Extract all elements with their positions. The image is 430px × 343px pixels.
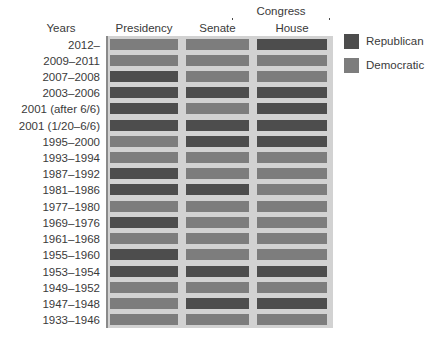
cell-house [257,55,327,66]
row-label-years: 1995–2000 [0,135,100,149]
table-row: 1955–1960 [0,247,430,263]
cell-presidency [110,314,178,325]
cell-house [257,136,327,147]
cell-presidency [110,103,178,114]
cell-senate [186,266,249,277]
cell-presidency [110,298,178,309]
party-control-chart: Congress Years Presidency Senate House 2… [0,0,430,343]
cell-house [257,152,327,163]
cell-senate [186,298,249,309]
table-row: 2001 (after 6/6) [0,101,430,117]
row-label-years: 1947–1948 [0,297,100,311]
row-label-years: 2012– [0,38,100,52]
cell-presidency [110,233,178,244]
table-row: 1933–1946 [0,312,430,328]
row-label-years: 1993–1994 [0,151,100,165]
cell-house [257,184,327,195]
cell-senate [186,120,249,131]
table-row: 1987–1992 [0,166,430,182]
cell-senate [186,249,249,260]
cell-senate [186,55,249,66]
row-label-years: 2001 (1/20–6/6) [0,119,100,133]
cell-senate [186,87,249,98]
legend-swatch-republican [344,34,359,49]
row-label-years: 1987–1992 [0,167,100,181]
cell-presidency [110,201,178,212]
table-row: 1953–1954 [0,264,430,280]
cell-house [257,120,327,131]
cell-house [257,168,327,179]
table-row: 1977–1980 [0,199,430,215]
cell-senate [186,201,249,212]
congress-group-label: Congress [232,4,330,18]
row-label-years: 1953–1954 [0,265,100,279]
cell-senate [186,168,249,179]
cell-house [257,298,327,309]
congress-group-bracket: Congress [232,4,330,20]
table-row: 2001 (1/20–6/6) [0,118,430,134]
cell-presidency [110,71,178,82]
cell-house [257,266,327,277]
cell-senate [186,314,249,325]
cell-house [257,87,327,98]
cell-presidency [110,249,178,260]
row-label-years: 1955–1960 [0,248,100,262]
table-row: 1947–1948 [0,296,430,312]
cell-house [257,103,327,114]
cell-presidency [110,217,178,228]
cell-presidency [110,152,178,163]
cell-house [257,217,327,228]
cell-presidency [110,55,178,66]
table-row: 1961–1968 [0,231,430,247]
cell-presidency [110,184,178,195]
legend-label-republican: Republican [366,34,424,49]
cell-senate [186,71,249,82]
cell-senate [186,217,249,228]
table-row: 1981–1986 [0,182,430,198]
cell-senate [186,233,249,244]
cell-presidency [110,168,178,179]
cell-senate [186,282,249,293]
cell-presidency [110,120,178,131]
row-label-years: 1949–1952 [0,281,100,295]
table-row: 1995–2000 [0,134,430,150]
cell-house [257,39,327,50]
table-row: 1949–1952 [0,280,430,296]
legend-swatch-democratic [344,58,359,73]
cell-presidency [110,136,178,147]
row-label-years: 1961–1968 [0,232,100,246]
cell-house [257,233,327,244]
row-label-years: 1977–1980 [0,200,100,214]
cell-presidency [110,87,178,98]
cell-presidency [110,39,178,50]
legend-label-democratic: Democratic [366,58,424,73]
cell-house [257,71,327,82]
row-label-years: 2003–2006 [0,86,100,100]
column-header-senate: Senate [186,21,249,35]
cell-house [257,249,327,260]
cell-house [257,201,327,212]
cell-house [257,282,327,293]
cell-house [257,314,327,325]
row-label-years: 1933–1946 [0,313,100,327]
cell-senate [186,39,249,50]
cell-senate [186,152,249,163]
table-row: 1969–1976 [0,215,430,231]
cell-presidency [110,266,178,277]
column-header-years: Years [18,21,104,35]
cell-senate [186,136,249,147]
cell-senate [186,184,249,195]
cell-presidency [110,282,178,293]
row-label-years: 2001 (after 6/6) [0,102,100,116]
row-label-years: 1969–1976 [0,216,100,230]
column-header-presidency: Presidency [110,21,178,35]
row-label-years: 2007–2008 [0,70,100,84]
table-row: 1993–1994 [0,150,430,166]
row-label-years: 2009–2011 [0,54,100,68]
table-row: 2003–2006 [0,85,430,101]
column-header-house: House [257,21,327,35]
cell-senate [186,103,249,114]
row-label-years: 1981–1986 [0,183,100,197]
